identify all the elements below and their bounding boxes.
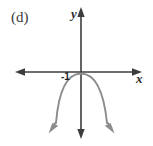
parabola-left-arrow-icon <box>49 122 59 134</box>
x-axis-left-arrow-icon <box>15 68 25 76</box>
y-axis-label: y <box>71 7 77 20</box>
graph-figure: (d) y x -1 <box>0 0 153 146</box>
y-axis-down-arrow-icon <box>77 129 84 139</box>
x-axis-label: x <box>136 72 143 85</box>
parabola-right-arrow-icon <box>105 122 115 134</box>
y-axis-up-arrow-icon <box>77 7 84 17</box>
panel-label: (d) <box>11 10 29 25</box>
y-intercept-label: -1 <box>61 72 70 82</box>
